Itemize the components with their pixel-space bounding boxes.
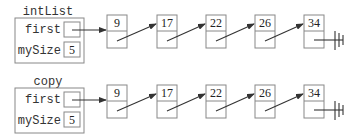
linked-list-diagram: intList first mySize 5 9 17 22 xyxy=(0,0,358,140)
node-value: 22 xyxy=(210,86,222,100)
node-value: 17 xyxy=(161,86,173,100)
node-value: 22 xyxy=(210,16,222,30)
list-name-label: intList xyxy=(23,5,73,19)
node: 9 xyxy=(107,15,127,48)
node-value: 34 xyxy=(308,16,320,30)
list-intList: intList first mySize 5 9 17 22 xyxy=(15,5,343,63)
node-value: 17 xyxy=(161,16,173,30)
node: 22 xyxy=(206,15,226,48)
node-value: 26 xyxy=(259,86,271,100)
node-value: 34 xyxy=(308,86,320,100)
node: 34 xyxy=(304,85,324,118)
node-value: 9 xyxy=(114,16,120,30)
node: 34 xyxy=(304,15,324,48)
node: 26 xyxy=(255,85,275,118)
node-value: 9 xyxy=(114,86,120,100)
node-value: 26 xyxy=(259,16,271,30)
size-value: 5 xyxy=(69,43,75,57)
size-field-label: mySize xyxy=(18,44,61,58)
size-field-label: mySize xyxy=(18,114,61,128)
node: 17 xyxy=(157,15,177,48)
node: 17 xyxy=(157,85,177,118)
list-name-label: copy xyxy=(34,75,63,89)
node: 26 xyxy=(255,15,275,48)
first-field-label: first xyxy=(25,93,61,107)
list-copy: copy first mySize 5 9 17 22 26 xyxy=(15,75,343,133)
node: 9 xyxy=(107,85,127,118)
first-field-label: first xyxy=(25,23,61,37)
size-value: 5 xyxy=(69,113,75,127)
node: 22 xyxy=(206,85,226,118)
